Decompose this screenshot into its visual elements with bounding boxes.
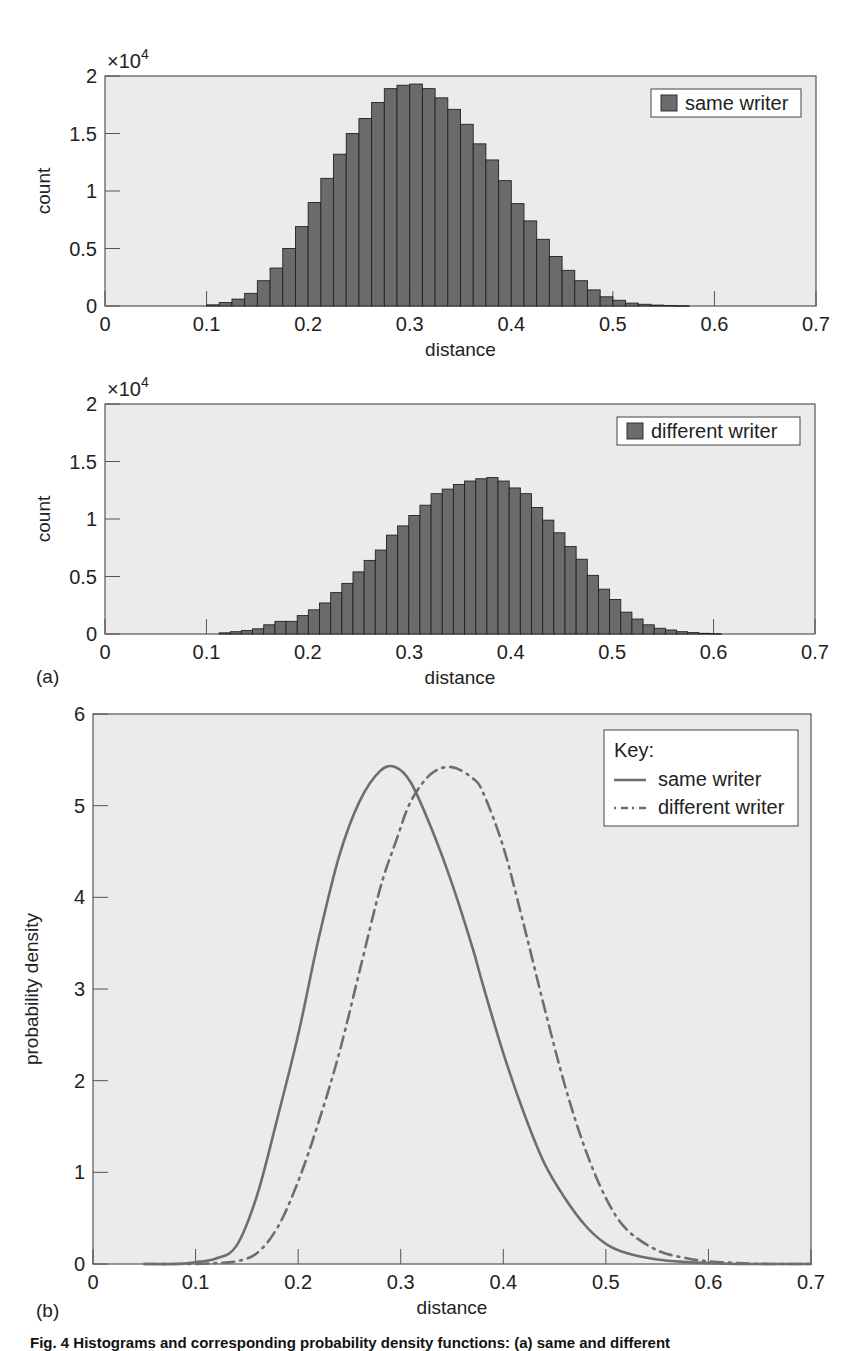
- y-multiplier-label: ×104: [107, 374, 149, 400]
- histogram-bar: [359, 119, 372, 306]
- histogram-bar: [372, 102, 385, 306]
- histogram-bar: [575, 281, 588, 306]
- histogram-bar: [473, 144, 486, 306]
- panel-label-a: (a): [36, 666, 59, 687]
- histogram-bar: [549, 257, 562, 306]
- y-tick-label: 0: [74, 1253, 85, 1275]
- y-tick-label: 2: [74, 1070, 85, 1092]
- histogram-bar: [587, 575, 598, 634]
- y-tick-label: 1: [74, 1161, 85, 1183]
- y-axis-label: count: [33, 495, 54, 542]
- histogram-bar: [321, 178, 334, 306]
- histogram-bar: [576, 559, 587, 634]
- histogram-bar: [384, 89, 397, 306]
- histogram-bar: [511, 204, 524, 306]
- x-tick-label: 0: [87, 1271, 98, 1293]
- histogram-bar: [654, 628, 665, 634]
- histogram-bar: [219, 303, 232, 306]
- x-tick-label: 0.4: [497, 313, 525, 335]
- histogram-bar: [386, 535, 397, 634]
- histogram-bar: [565, 547, 576, 634]
- histogram-bar: [257, 281, 270, 306]
- histogram-bar: [665, 630, 676, 634]
- density-plot: 012345600.10.20.30.40.50.60.7distancepro…: [21, 703, 825, 1318]
- x-tick-label: 0.3: [395, 641, 423, 663]
- histogram-bar: [398, 526, 409, 634]
- legend-label: different writer: [658, 796, 785, 818]
- legend: same writer: [651, 89, 801, 117]
- x-tick-label: 0.1: [182, 1271, 210, 1293]
- histogram-bar: [498, 481, 509, 634]
- histogram-bar: [543, 520, 554, 634]
- y-tick-label: 4: [74, 886, 85, 908]
- histogram-bar: [651, 305, 664, 306]
- y-tick-label: 2: [86, 393, 97, 415]
- histogram-bar: [283, 249, 296, 307]
- histogram-bar: [334, 154, 347, 306]
- legend-label: same writer: [658, 768, 762, 790]
- x-tick-label: 0.3: [396, 313, 424, 335]
- x-axis-label: distance: [425, 339, 496, 360]
- histogram-bar: [420, 505, 431, 634]
- histogram-bar: [487, 478, 498, 634]
- legend-swatch: [627, 423, 643, 439]
- x-tick-label: 0.7: [801, 641, 829, 663]
- histogram-bar: [397, 85, 410, 306]
- histogram-bar: [435, 98, 448, 306]
- x-tick-label: 0.1: [193, 313, 221, 335]
- y-tick-label: 0.5: [69, 566, 97, 588]
- y-tick-label: 1: [86, 508, 97, 530]
- x-tick-label: 0.2: [294, 641, 322, 663]
- x-tick-label: 0: [99, 313, 110, 335]
- histogram-bar: [610, 600, 621, 635]
- histogram-bar: [598, 589, 609, 634]
- legend-title: Key:: [614, 739, 654, 761]
- histogram-bar: [442, 489, 453, 634]
- histogram-bar: [554, 533, 565, 634]
- histogram-bar: [638, 304, 651, 306]
- x-tick-label: 0.3: [387, 1271, 415, 1293]
- histogram-bar: [524, 221, 537, 306]
- figure-caption: Fig. 4 Histograms and corresponding prob…: [30, 1334, 670, 1351]
- x-tick-label: 0.5: [598, 641, 626, 663]
- histogram-bar: [461, 124, 474, 306]
- histogram-bar: [264, 625, 275, 634]
- histogram-bar: [253, 629, 264, 634]
- x-tick-label: 0.4: [497, 641, 525, 663]
- histogram-bar: [448, 109, 461, 306]
- legend-label: same writer: [685, 92, 789, 114]
- histogram-bar: [342, 583, 353, 634]
- y-axis-label: count: [33, 167, 54, 214]
- histogram-bar: [364, 560, 375, 634]
- x-tick-label: 0.6: [695, 1271, 723, 1293]
- histogram-bar: [410, 84, 423, 306]
- histogram-bar: [613, 300, 626, 306]
- y-tick-label: 2: [86, 65, 97, 87]
- histogram-bar: [532, 508, 543, 635]
- histogram-bar: [643, 625, 654, 634]
- y-tick-label: 3: [74, 978, 85, 1000]
- y-tick-label: 6: [74, 703, 85, 725]
- x-axis-label: distance: [425, 667, 496, 688]
- histogram-bar: [409, 516, 420, 634]
- histogram-bar: [710, 634, 721, 635]
- x-tick-label: 0.6: [701, 313, 729, 335]
- y-tick-label: 0: [86, 623, 97, 645]
- y-tick-label: 0: [86, 295, 97, 317]
- x-tick-label: 0.2: [294, 313, 322, 335]
- histogram-bar: [308, 203, 321, 307]
- y-tick-label: 1: [86, 180, 97, 202]
- y-tick-label: 5: [74, 795, 85, 817]
- histogram-bar: [632, 619, 643, 634]
- histogram-bar: [270, 268, 283, 306]
- x-tick-label: 0.5: [599, 313, 627, 335]
- histogram-bar: [275, 621, 286, 634]
- histogram-bar: [465, 481, 476, 634]
- histogram-bar: [232, 299, 245, 306]
- histogram-bar: [219, 633, 230, 634]
- histogram-bar: [677, 632, 688, 634]
- legend: different writer: [617, 417, 800, 445]
- histogram-bar: [453, 485, 464, 635]
- histogram-bar: [621, 612, 632, 634]
- x-tick-label: 0.7: [797, 1271, 825, 1293]
